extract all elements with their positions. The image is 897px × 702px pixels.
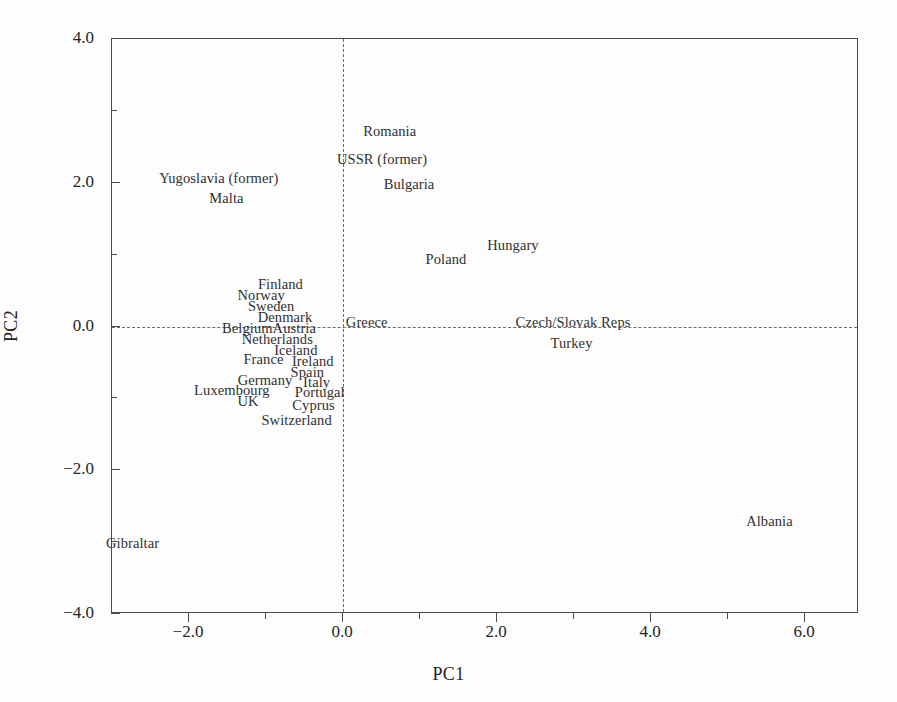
- data-point-label: Greece: [346, 315, 388, 330]
- x-axis-minor-tick: [573, 613, 574, 619]
- data-point-label: Gibraltar: [106, 535, 159, 550]
- y-axis-tick: [111, 182, 120, 183]
- y-axis-tick: [111, 38, 120, 39]
- x-axis-tick-label: 0.0: [331, 622, 352, 642]
- x-axis-tick-label: 6.0: [793, 622, 814, 642]
- y-axis-tick: [111, 326, 120, 327]
- x-axis-tick-label: 4.0: [639, 622, 660, 642]
- y-axis-tick-label: 2.0: [73, 172, 94, 192]
- x-axis-tick: [188, 613, 189, 622]
- y-axis-minor-tick: [111, 254, 117, 255]
- data-point-label: Poland: [426, 252, 467, 267]
- data-point-label: Bulgaria: [384, 177, 435, 192]
- y-axis-minor-tick: [111, 110, 117, 111]
- y-axis-tick-label: −4.0: [63, 603, 94, 623]
- x-axis-tick: [342, 613, 343, 622]
- data-point-label: Malta: [209, 190, 243, 205]
- data-point-label: Czech/Slovak Reps: [516, 315, 631, 330]
- x-axis-tick: [650, 613, 651, 622]
- data-point-label: Turkey: [551, 336, 593, 351]
- data-point-label: UK: [238, 394, 259, 409]
- y-axis-title: PC2: [1, 310, 22, 342]
- data-point-label: Romania: [363, 124, 416, 139]
- x-axis-minor-tick: [419, 613, 420, 619]
- data-point-label: USSR (former): [337, 152, 427, 167]
- x-axis-tick-label: 2.0: [485, 622, 506, 642]
- data-point-label: Hungary: [487, 238, 538, 253]
- data-point-label: Cyprus: [292, 397, 335, 412]
- x-axis-tick: [804, 613, 805, 622]
- data-point-label: Albania: [746, 514, 793, 529]
- y-axis-tick-label: 4.0: [73, 28, 94, 48]
- y-axis-tick: [111, 613, 120, 614]
- data-point-label: Switzerland: [261, 413, 331, 428]
- x-axis-title: PC1: [0, 664, 897, 685]
- chart-canvas: −2.00.02.04.06.04.02.00.0−2.0−4.0Romania…: [0, 0, 897, 702]
- y-axis-minor-tick: [111, 397, 117, 398]
- y-axis-tick-label: −2.0: [63, 459, 94, 479]
- x-axis-tick: [496, 613, 497, 622]
- zero-reference-line-vertical: [343, 39, 344, 612]
- x-axis-tick-label: −2.0: [173, 622, 204, 642]
- data-point-label: France: [243, 352, 283, 367]
- y-axis-tick-label: 0.0: [73, 316, 94, 336]
- y-axis-tick: [111, 469, 120, 470]
- x-axis-minor-tick: [727, 613, 728, 619]
- data-point-label: Yugoslavia (former): [159, 171, 278, 186]
- x-axis-minor-tick: [265, 613, 266, 619]
